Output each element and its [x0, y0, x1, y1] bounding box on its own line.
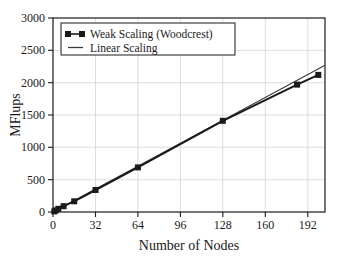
y-tick-label-2500: 2500: [21, 43, 45, 57]
data-point-marker: [61, 203, 67, 209]
chart-figure: 0 500 1000 1500 2000 2500 3000 0 32 64 9…: [0, 0, 340, 258]
data-point-marker: [93, 187, 99, 193]
data-point-marker: [315, 72, 321, 78]
data-point-marker: [294, 82, 300, 88]
legend-label-linear-scaling: Linear Scaling: [90, 42, 158, 55]
weak-scaling-chart: 0 500 1000 1500 2000 2500 3000 0 32 64 9…: [0, 0, 340, 258]
legend-square-marker-icon: [65, 31, 71, 37]
x-tick-label-0: 0: [50, 218, 56, 232]
data-point-marker: [135, 164, 141, 170]
y-tick-label-0: 0: [39, 205, 45, 219]
y-axis-title: MFlups: [8, 93, 23, 137]
y-tick-label-3000: 3000: [21, 11, 45, 25]
chart-legend: Weak Scaling (Woodcrest) Linear Scaling: [61, 23, 235, 55]
x-tick-label-32: 32: [90, 218, 102, 232]
x-tick-label-160: 160: [256, 218, 274, 232]
y-tick-label-1000: 1000: [21, 140, 45, 154]
data-point-marker: [220, 118, 226, 124]
x-axis-title: Number of Nodes: [139, 238, 239, 253]
x-tick-label-192: 192: [299, 218, 317, 232]
y-tick-label-1500: 1500: [21, 108, 45, 122]
x-tick-label-128: 128: [214, 218, 232, 232]
y-tick-label-2000: 2000: [21, 76, 45, 90]
legend-label-weak-scaling: Weak Scaling (Woodcrest): [90, 28, 213, 41]
x-tick-label-64: 64: [132, 218, 144, 232]
data-point-marker: [55, 206, 61, 212]
y-tick-label-500: 500: [27, 173, 45, 187]
legend-square-marker-icon: [79, 31, 85, 37]
data-point-marker: [71, 198, 77, 204]
x-tick-label-96: 96: [174, 218, 186, 232]
